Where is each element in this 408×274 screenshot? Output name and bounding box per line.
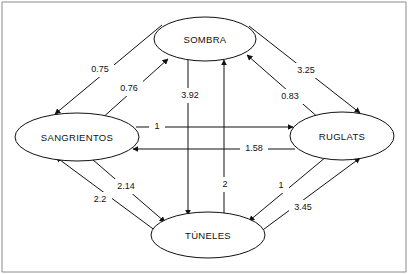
edge-weight-sombra-ruglats: 3.25	[297, 65, 315, 75]
node-ruglats[interactable]: RUGLATS	[290, 112, 394, 160]
edge-weight-ruglats-tuneles: 1	[278, 180, 283, 190]
diagram-canvas: SOMBRA SANGRIENTOS RUGLATS TÚNELES 0.75 …	[0, 0, 408, 274]
node-sombra[interactable]: SOMBRA	[154, 17, 256, 61]
node-sombra-label: SOMBRA	[184, 34, 227, 45]
edge-weight-sangrientos-ruglats: 1	[154, 121, 159, 131]
edge-weight-ruglats-sangrientos: 1.58	[245, 143, 263, 153]
node-tuneles-label: TÚNELES	[185, 230, 231, 241]
edge-weight-sangrientos-tuneles: 2.14	[117, 181, 135, 191]
edge-weight-tuneles-ruglats: 3.45	[294, 202, 312, 212]
edge-weight-ruglats-sombra: 0.83	[281, 91, 299, 101]
edge-weight-tuneles-sombra: 2	[222, 179, 227, 189]
node-sangrientos-label: SANGRIENTOS	[41, 132, 113, 143]
graph-diagram: SOMBRA SANGRIENTOS RUGLATS TÚNELES 0.75 …	[0, 0, 408, 274]
node-tuneles[interactable]: TÚNELES	[151, 212, 265, 258]
node-sangrientos[interactable]: SANGRIENTOS	[15, 113, 139, 161]
edge-weight-sombra-sangrientos: 0.75	[91, 64, 109, 74]
edge-weight-sangrientos-sombra: 0.76	[120, 83, 138, 93]
node-ruglats-label: RUGLATS	[319, 131, 365, 142]
edge-weight-tuneles-sangrientos: 2.2	[94, 194, 107, 204]
edge-weight-sombra-tuneles: 3.92	[181, 90, 199, 100]
edge-tuneles-to-ruglats	[256, 158, 360, 235]
